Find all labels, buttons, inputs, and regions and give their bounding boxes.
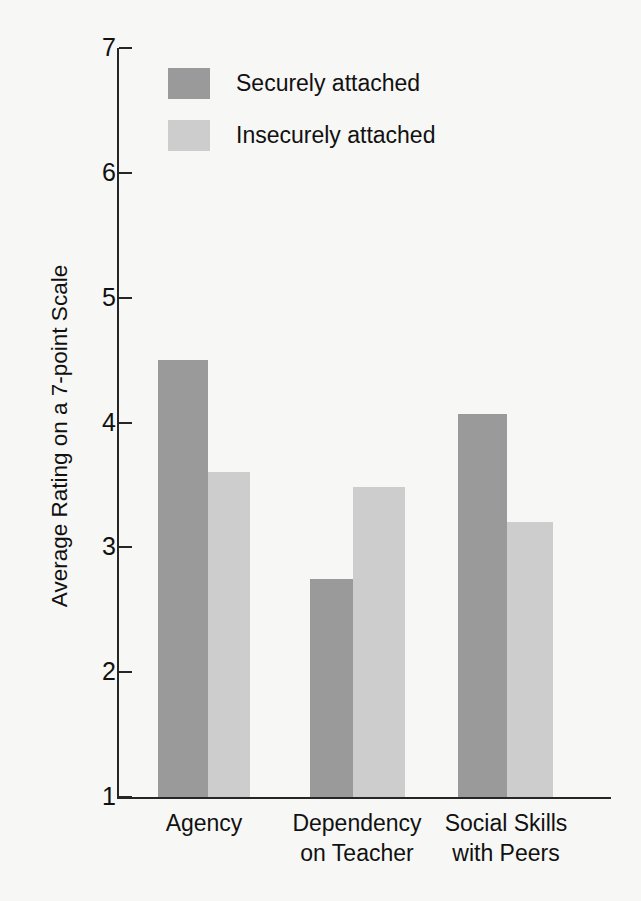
legend-label-insecure: Insecurely attached xyxy=(236,122,435,148)
legend-swatch-secure-icon xyxy=(168,68,210,99)
bar-secure-0 xyxy=(158,360,208,797)
bar-chart: Average Rating on a 7-point Scale 123456… xyxy=(0,0,641,901)
x-axis-line xyxy=(117,797,611,799)
y-tick-label-7: 7 xyxy=(90,35,116,60)
y-tick-label-5: 5 xyxy=(90,285,116,310)
y-tick-mark-5 xyxy=(119,297,132,299)
y-tick-mark-6 xyxy=(119,172,132,174)
legend-swatch-insecure-icon xyxy=(168,120,210,151)
legend-item-insecure: Insecurely attached xyxy=(168,115,498,155)
bar-insecure-2 xyxy=(507,522,553,797)
bar-secure-1 xyxy=(310,579,353,797)
y-tick-label-3: 3 xyxy=(90,534,116,559)
y-tick-mark-4 xyxy=(119,422,132,424)
y-tick-mark-2 xyxy=(119,671,132,673)
y-tick-mark-1 xyxy=(119,796,132,798)
x-category-label-2: Social Skillswith Peers xyxy=(396,808,616,868)
y-tick-label-4: 4 xyxy=(90,410,116,435)
y-axis-title: Average Rating on a 7-point Scale xyxy=(48,226,72,646)
y-axis-line xyxy=(117,48,119,799)
legend-item-secure: Securely attached xyxy=(168,63,498,103)
y-tick-mark-3 xyxy=(119,546,132,548)
bar-insecure-0 xyxy=(208,472,250,797)
chart-legend: Securely attached Insecurely attached xyxy=(168,63,498,167)
y-tick-label-6: 6 xyxy=(90,160,116,185)
y-tick-label-2: 2 xyxy=(90,659,116,684)
y-tick-label-1: 1 xyxy=(90,784,116,809)
legend-label-secure: Securely attached xyxy=(236,70,420,96)
chart-page: Average Rating on a 7-point Scale 123456… xyxy=(0,0,641,901)
bar-secure-2 xyxy=(458,414,507,797)
y-tick-mark-7 xyxy=(119,47,132,49)
bar-insecure-1 xyxy=(353,487,405,797)
